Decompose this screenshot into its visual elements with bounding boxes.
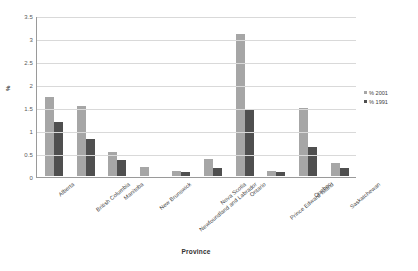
legend-item[interactable]: % 2001 [364,88,412,97]
x-axis-label-slot: New Brunswick [133,179,165,239]
y-axis-ticks: 3.532.521.510.50 [0,17,33,178]
bar [77,106,86,176]
bar [117,160,126,176]
y-axis-tick-label: 2 [3,83,33,89]
bar [181,172,190,176]
gridline [37,86,356,87]
y-axis-tick-label: 1.5 [3,106,33,112]
x-axis-label-slot: Saskatchewan [324,179,356,239]
x-axis-label-slot: Quebec [292,179,324,239]
gridline [37,40,356,41]
gridline [37,109,356,110]
chart-legend: % 2001% 1991 [364,88,412,106]
plot-area [36,17,356,178]
gridline [37,132,356,133]
y-axis-tick-label: 0 [3,175,33,181]
bar [245,109,254,176]
y-axis-tick-label: 1 [3,129,33,135]
x-axis-label-slot: Alberta [37,179,69,239]
x-axis-title: Province [0,248,392,255]
legend-item[interactable]: % 1991 [364,97,412,106]
bar-chart: % 3.532.521.510.50 AlbertaBritish Columb… [0,0,418,271]
bar [204,159,213,176]
bar [340,168,349,176]
y-axis-tick-label: 3.5 [3,14,33,20]
y-axis-tick-label: 3 [3,37,33,43]
x-axis-label-slot: Newfoundland and Labrador [165,179,197,239]
bar [276,172,285,176]
y-axis-tick-label: 0.5 [3,152,33,158]
gridline [37,63,356,64]
x-axis-labels: AlbertaBritish ColumbiaManitobaNew Bruns… [37,179,356,239]
bar [331,163,340,176]
legend-label: % 1991 [369,99,388,105]
x-axis-label-slot: Nova Scotia [197,179,229,239]
bar [172,171,181,176]
bar [308,147,317,176]
bar [54,122,63,176]
bar [299,108,308,176]
bar [140,167,149,176]
legend-label: % 2001 [369,90,388,96]
x-axis-label-slot: British Columbia [69,179,101,239]
x-axis-label-slot: Ontario [228,179,260,239]
gridline [37,17,356,18]
gridline [37,155,356,156]
y-axis-tick-label: 2.5 [3,60,33,66]
x-axis-label-slot: Prince Edward Island [260,179,292,239]
legend-swatch-icon [364,91,367,94]
x-axis-label-slot: Manitoba [101,179,133,239]
x-axis-tick-label: Saskatchewan [349,181,382,210]
bar [267,171,276,176]
bar [86,139,95,176]
bar [213,168,222,176]
legend-swatch-icon [364,100,367,103]
